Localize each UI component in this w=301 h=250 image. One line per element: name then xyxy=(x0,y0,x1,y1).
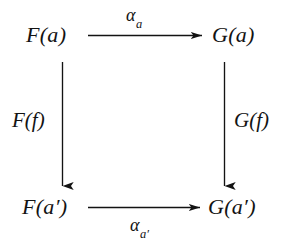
edge-label-right-G-f: G(f) xyxy=(234,110,269,131)
node-bottom-left-F-a-prime: F(a′) xyxy=(22,196,67,218)
alpha-subscript-a-prime: a′ xyxy=(140,227,149,241)
alpha-glyph: α xyxy=(130,215,139,235)
alpha-subscript-a: a xyxy=(136,17,142,31)
commutative-diagram: F(a) G(a) F(a′) G(a′) αa αa′ F(f) G(f) xyxy=(0,0,301,250)
node-top-left-F-a: F(a) xyxy=(26,24,66,46)
node-bottom-right-G-a-prime: G(a′) xyxy=(208,196,256,218)
node-top-right-G-a: G(a) xyxy=(212,24,255,46)
edge-label-bottom-alpha-a-prime: αa′ xyxy=(130,216,148,238)
edge-label-left-F-f: F(f) xyxy=(12,110,45,131)
alpha-glyph: α xyxy=(126,5,135,25)
edge-label-top-alpha-a: αa xyxy=(126,6,142,28)
